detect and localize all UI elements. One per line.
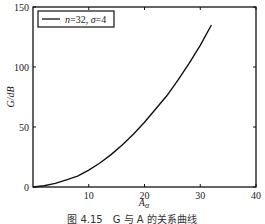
series-line <box>33 25 211 187</box>
y-tick-label: 100 <box>14 62 29 73</box>
chart: 10203040050100150 n=32, σ=4 G/dB Aα 图 4.… <box>0 0 265 224</box>
legend: n=32, σ=4 <box>38 11 114 27</box>
legend-label: n=32, σ=4 <box>65 14 106 25</box>
x-tick-label: 10 <box>84 190 94 201</box>
x-tick-label: 40 <box>251 190 261 201</box>
y-tick-label: 150 <box>14 2 29 13</box>
x-tick-label: 30 <box>195 190 205 201</box>
y-tick-label: 50 <box>19 122 29 133</box>
figure-caption: 图 4.15 G 与 A 的关系曲线 <box>67 213 197 224</box>
y-axis-label: G/dB <box>5 86 16 107</box>
plot-area-frame <box>33 7 256 187</box>
y-tick-label: 0 <box>24 182 29 193</box>
